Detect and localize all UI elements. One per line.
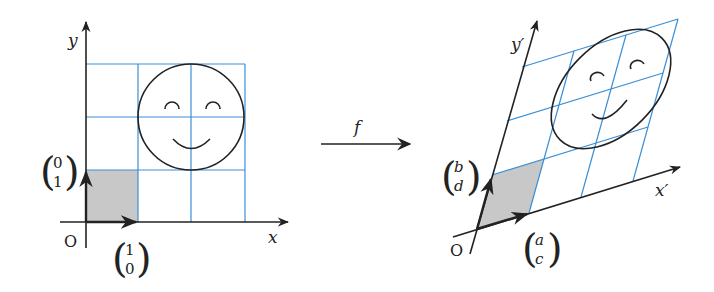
svg-text:c: c xyxy=(535,250,544,268)
mapping-label: f xyxy=(352,117,363,137)
left-eye xyxy=(165,102,179,109)
svg-text:d: d xyxy=(454,177,464,195)
svg-text:1: 1 xyxy=(53,173,63,191)
vector-label-e1: ( 1 0 ) xyxy=(112,235,152,281)
right-eye xyxy=(630,60,644,69)
svg-text:0: 0 xyxy=(125,260,135,278)
origin-label: O xyxy=(64,232,77,251)
unit-square xyxy=(86,170,138,222)
x-axis-label: x xyxy=(268,227,278,247)
svg-text:): ) xyxy=(466,153,482,199)
svg-text:1: 1 xyxy=(125,241,135,259)
left-eye xyxy=(590,72,604,81)
origin-label: O xyxy=(450,241,463,260)
svg-text:): ) xyxy=(547,225,563,271)
vector-label-a-c: ( a c ) xyxy=(522,225,563,271)
transformed-plane: y′ x′ O ( b d ) ( a c ) xyxy=(441,7,693,271)
y-axis-label: y xyxy=(67,30,78,50)
original-plane: y x O ( 0 1 ) ( 1 0 ) xyxy=(40,22,288,281)
mapping-f: f xyxy=(321,117,410,144)
y-prime-axis-label: y′ xyxy=(510,34,525,54)
transformation-diagram: y x O ( 0 1 ) ( 1 0 ) f xyxy=(0,0,714,292)
svg-text:): ) xyxy=(136,235,152,281)
svg-text:): ) xyxy=(64,148,80,194)
svg-text:b: b xyxy=(454,158,464,176)
x-prime-axis-label: x′ xyxy=(655,180,669,200)
svg-text:0: 0 xyxy=(53,154,63,172)
svg-text:a: a xyxy=(535,231,544,249)
mouth xyxy=(592,100,627,119)
vector-label-b-d: ( b d ) xyxy=(441,153,482,199)
vector-label-e2: ( 0 1 ) xyxy=(40,148,80,194)
right-eye xyxy=(206,102,220,109)
